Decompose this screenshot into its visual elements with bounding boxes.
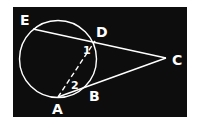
point-label-D: D — [96, 24, 108, 40]
geometry-diagram: E D C B A 1 2 — [0, 0, 198, 127]
angle-label-2: 2 — [71, 79, 79, 92]
point-label-A: A — [52, 101, 63, 117]
point-label-E: E — [20, 12, 30, 28]
point-label-B: B — [89, 88, 100, 104]
circle — [20, 21, 97, 98]
angle-label-1: 1 — [83, 44, 91, 57]
point-label-C: C — [172, 52, 182, 68]
